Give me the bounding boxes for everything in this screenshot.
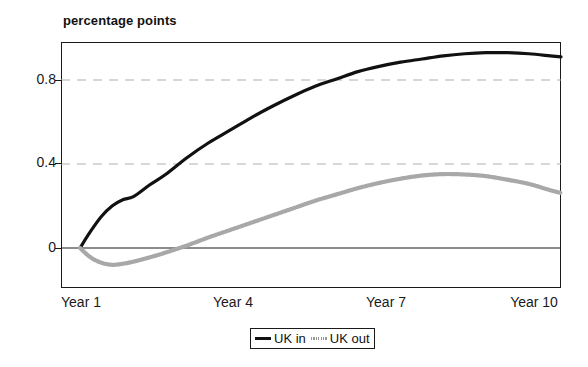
legend-entry-uk-out: UK out (311, 331, 370, 346)
gridlines-group (61, 80, 561, 164)
x-axis-tick-label-year-7: Year 7 (366, 294, 406, 310)
chart-legend: UK in UK out (250, 328, 375, 349)
legend-label-uk-out: UK out (330, 331, 370, 346)
y-axis-tick-label-0: 0 (16, 239, 56, 255)
chart-figure: percentage points 0.8 0.4 0 Year 1 Year … (0, 0, 588, 367)
legend-label-uk-in: UK in (274, 331, 306, 346)
legend-swatch-dotted-line-icon (311, 337, 327, 340)
y-axis-tick-label-0-8: 0.8 (16, 71, 56, 87)
y-tick-mark-0 (55, 248, 62, 249)
x-axis-tick-label-year-4: Year 4 (213, 294, 253, 310)
legend-swatch-solid-line-icon (255, 337, 271, 340)
series-line-uk-in (80, 53, 561, 248)
x-axis-tick-label-year-1: Year 1 (61, 294, 101, 310)
y-axis-tick-label-0-4: 0.4 (16, 154, 56, 170)
x-axis-tick-label-year-10: Year 10 (510, 294, 558, 310)
series-line-uk-out (80, 174, 561, 265)
chart-title: percentage points (63, 13, 177, 28)
y-tick-mark-0-8 (55, 80, 62, 81)
plot-area (61, 42, 561, 288)
legend-entry-uk-in: UK in (255, 331, 306, 346)
series-group (80, 53, 561, 265)
y-tick-mark-0-4 (55, 163, 62, 164)
